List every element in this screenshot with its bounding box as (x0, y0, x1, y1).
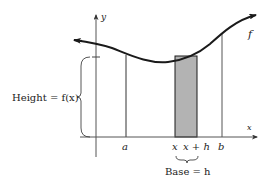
area-rectangle (175, 56, 197, 137)
tick-label-x: x (172, 141, 178, 152)
x-axis-label: x (247, 123, 252, 132)
tick-label-b: b (218, 141, 224, 152)
base-label: Base = h (165, 166, 211, 177)
y-axis-label: y (100, 12, 107, 22)
riemann-diagram: y x f a x x + h b Height = f(x) Base = h (0, 0, 266, 186)
base-brace (176, 156, 198, 163)
tick-label-x-plus-h: x + h (183, 141, 210, 152)
height-label: Height = f(x) (12, 92, 79, 103)
curve-label-f: f (247, 28, 254, 41)
tick-label-a: a (122, 141, 128, 152)
height-brace (77, 57, 90, 137)
curve-left-arrow (74, 40, 82, 41)
curve-f (74, 15, 256, 62)
